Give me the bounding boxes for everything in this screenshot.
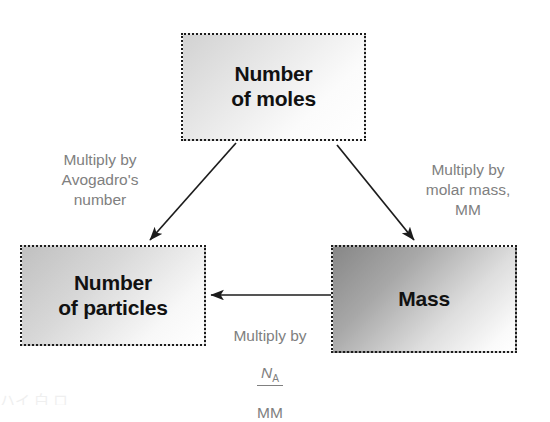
node-mass-label: Mass — [398, 287, 450, 312]
fraction-denominator: MM — [257, 403, 283, 421]
node-number-of-particles[interactable]: Number of particles — [20, 245, 206, 346]
node-moles-label: Number of moles — [231, 62, 316, 112]
edge-label-avogadro: Multiply by Avogadro's number — [20, 150, 180, 209]
fraction-na-over-mm: NA MM — [257, 347, 283, 422]
caption-remnant: ハイ 白 ロ — [0, 389, 300, 405]
fraction-numerator-subscript: A — [272, 373, 279, 384]
edge-label-bottom-text: Multiply by — [233, 327, 306, 344]
node-number-of-moles[interactable]: Number of moles — [181, 33, 366, 141]
node-particles-label: Number of particles — [58, 271, 168, 321]
fraction-numerator: NA — [257, 364, 283, 386]
fraction-numerator-symbol: N — [261, 364, 272, 381]
edge-label-molar-mass: Multiply by molar mass, MM — [392, 160, 544, 219]
node-mass[interactable]: Mass — [331, 245, 517, 353]
